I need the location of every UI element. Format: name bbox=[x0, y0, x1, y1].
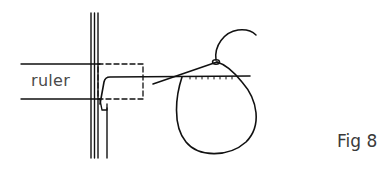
hook-needle bbox=[100, 76, 250, 104]
yarn-tail bbox=[216, 30, 256, 60]
stitch-ticks bbox=[190, 77, 232, 79]
ruler-label: ruler bbox=[31, 71, 70, 90]
yarn-diagonal bbox=[153, 62, 217, 84]
figure-caption: Fig 8 bbox=[337, 131, 377, 151]
